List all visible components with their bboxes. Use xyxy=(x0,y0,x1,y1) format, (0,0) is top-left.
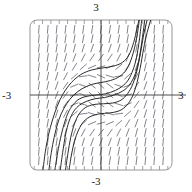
axis-label-right: 3 xyxy=(178,90,184,101)
axis-label-bottom: -3 xyxy=(0,176,192,187)
axis-label-top: 3 xyxy=(0,2,192,13)
slope-field-figure: 3 -3 -3 3 xyxy=(0,0,192,192)
slope-field-canvas xyxy=(0,0,192,192)
axis-label-left: -3 xyxy=(2,90,11,101)
